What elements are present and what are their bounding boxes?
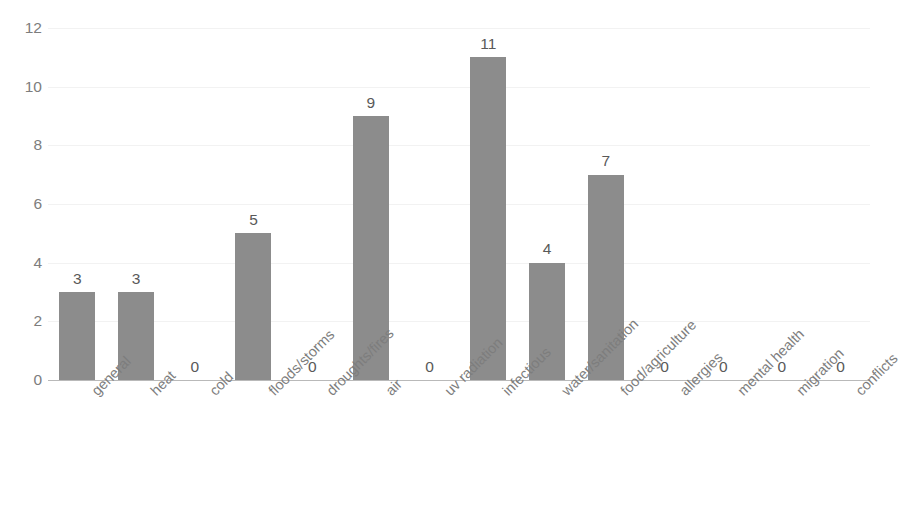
y-axis-tick-label: 12 [2,20,42,36]
bar-group[interactable]: 3 [48,28,107,380]
bar-group[interactable]: 0 [811,28,870,380]
bar-value-label: 3 [73,271,82,287]
bar-group[interactable]: 5 [224,28,283,380]
y-axis: 024681012 [0,0,42,528]
y-axis-tick-label: 6 [2,196,42,212]
bar-group[interactable]: 3 [107,28,166,380]
bar-value-label: 9 [367,95,376,111]
bar-group[interactable]: 0 [400,28,459,380]
bar-value-label: 7 [601,153,610,169]
bar-group[interactable]: 4 [518,28,577,380]
bars-layer: 330509011470000 [48,28,870,380]
bar-group[interactable]: 9 [342,28,401,380]
bar-value-label: 11 [480,36,496,52]
bar-group[interactable]: 0 [283,28,342,380]
x-axis-labels: generalheatcoldfloods/stormsdroughts/fir… [48,388,870,528]
bar[interactable] [470,57,506,380]
bar[interactable] [235,233,271,380]
y-axis-tick-label: 4 [2,255,42,271]
bar-value-label: 3 [132,271,141,287]
bar-value-label: 5 [249,212,258,228]
y-axis-tick-label: 2 [2,314,42,330]
bar[interactable] [59,292,95,380]
bar-group[interactable]: 0 [694,28,753,380]
bar-value-label: 0 [190,359,199,375]
bar-group[interactable]: 0 [753,28,812,380]
y-axis-tick-label: 0 [2,372,42,388]
bar-group[interactable]: 0 [165,28,224,380]
bar-value-label: 4 [543,241,552,257]
bar-value-label: 0 [425,359,434,375]
y-axis-tick-label: 10 [2,79,42,95]
y-axis-tick-label: 8 [2,138,42,154]
bar-group[interactable]: 11 [459,28,518,380]
